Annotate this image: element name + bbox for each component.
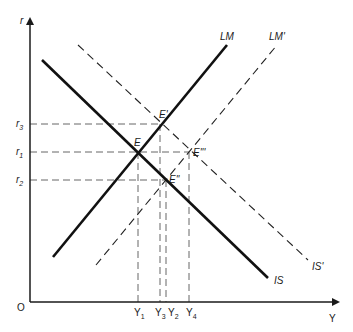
y2-label: Y2 [168,307,179,320]
guide-lines [30,124,189,302]
lm-label: LM [220,31,235,42]
y1-label: Y1 [134,307,145,320]
equilibrium-e1-label: E' [159,109,169,120]
is-curve [42,60,268,278]
r1-label: r1 [16,146,23,159]
is-label: IS [274,275,284,286]
y3-label: Y3 [155,307,166,320]
equilibrium-e3-label: E''' [193,147,206,158]
equilibrium-e-label: E [134,137,141,148]
lm-prime-label: LM' [269,31,286,42]
x-axis-label: Y [329,313,336,324]
is-lm-diagram: r Y O LM LM' IS IS' E E' E'' E''' r3 r1 … [0,0,353,332]
lm-prime-curve [96,45,277,265]
y4-label: Y4 [186,307,197,320]
is-prime-label: IS' [312,261,324,272]
r2-label: r2 [16,174,23,187]
origin-label: O [17,302,25,313]
r3-label: r3 [16,118,23,131]
y-axis-label: r [20,15,24,26]
equilibrium-e2-label: E'' [169,174,181,185]
